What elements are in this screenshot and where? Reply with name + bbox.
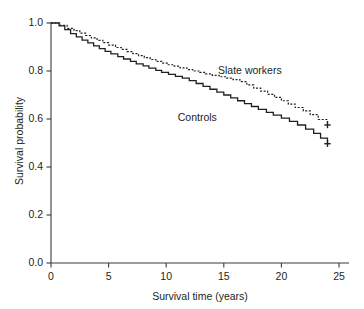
x-axis-title-wrap: Survival time (years)	[120, 286, 280, 304]
survival-curve-figure: Survival probability Survival time (year…	[0, 0, 364, 309]
x-tick-label: 10	[152, 270, 180, 282]
x-tick-label: 20	[267, 270, 295, 282]
y-axis-title-wrap: Survival probability	[9, 85, 27, 197]
axis-layer	[47, 22, 350, 268]
x-tick-label: 15	[210, 270, 238, 282]
y-tick-label: 0.2	[5, 208, 43, 220]
y-tick-label: 0.8	[5, 64, 43, 76]
x-axis-title: Survival time (years)	[152, 290, 248, 302]
series-label-slate-workers: Slate workers	[218, 64, 282, 76]
y-tick-label: 1.0	[5, 16, 43, 28]
series-label-controls: Controls	[178, 111, 217, 123]
series-line-controls	[51, 23, 327, 144]
y-tick-label: 0.6	[5, 112, 43, 124]
series-line-slate-workers	[51, 23, 327, 125]
y-tick-label: 0.4	[5, 160, 43, 172]
y-tick-label: 0.0	[5, 256, 43, 268]
x-tick-label: 5	[95, 270, 123, 282]
x-tick-label: 0	[37, 270, 65, 282]
x-tick-label: 25	[325, 270, 353, 282]
chart-canvas	[0, 0, 364, 309]
series-layer	[51, 23, 331, 147]
